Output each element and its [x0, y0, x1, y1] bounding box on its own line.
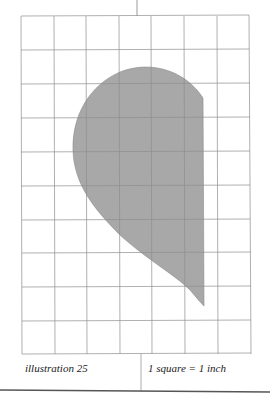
- pattern-diagram: [0, 0, 270, 396]
- scale-label: 1 square = 1 inch: [148, 362, 226, 374]
- bottom-rule: [0, 390, 270, 392]
- illustration-label: illustration 25: [25, 362, 88, 374]
